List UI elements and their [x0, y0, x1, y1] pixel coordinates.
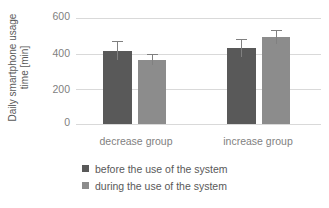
errorbar-cap-top-increase-during [271, 30, 282, 31]
chart-legend: before the use of the system during the … [82, 160, 322, 194]
y-axis-title: Daily smartphone usage time [min] [7, 6, 30, 130]
legend-label-before: before the use of the system [95, 163, 228, 175]
bar-increase-before [227, 48, 256, 124]
legend-swatch-during-icon [82, 182, 89, 189]
bar-chart: Daily smartphone usage time [min] 600 40… [0, 0, 329, 208]
y-tick-label-0: 0 [34, 117, 70, 128]
errorbar-increase-before [241, 39, 242, 57]
legend-swatch-before-icon [82, 165, 89, 172]
errorbar-increase-during [276, 30, 277, 44]
legend-item-before: before the use of the system [82, 160, 322, 177]
gridline-600 [76, 18, 321, 19]
errorbar-cap-top-decrease-during [147, 54, 158, 55]
errorbar-decrease-during [152, 54, 153, 65]
y-tick-label-200: 200 [34, 84, 70, 95]
y-tick-label-600: 600 [34, 11, 70, 22]
errorbar-cap-top-increase-before [236, 39, 247, 40]
y-axis-tick-labels: 600 400 200 0 [34, 0, 70, 140]
plot-area [76, 18, 321, 124]
x-axis-label-decrease-group: decrease group [86, 135, 186, 147]
bar-decrease-before [103, 51, 132, 124]
x-axis-label-increase-group: increase group [208, 135, 308, 147]
bar-increase-during [262, 37, 290, 124]
axis-baseline-0 [76, 124, 321, 125]
y-tick-label-400: 400 [34, 48, 70, 59]
errorbar-decrease-before [117, 41, 118, 60]
legend-label-during: during the use of the system [95, 180, 227, 192]
legend-item-during: during the use of the system [82, 177, 322, 194]
bar-decrease-during [138, 60, 166, 124]
errorbar-cap-top-decrease-before [112, 41, 123, 42]
